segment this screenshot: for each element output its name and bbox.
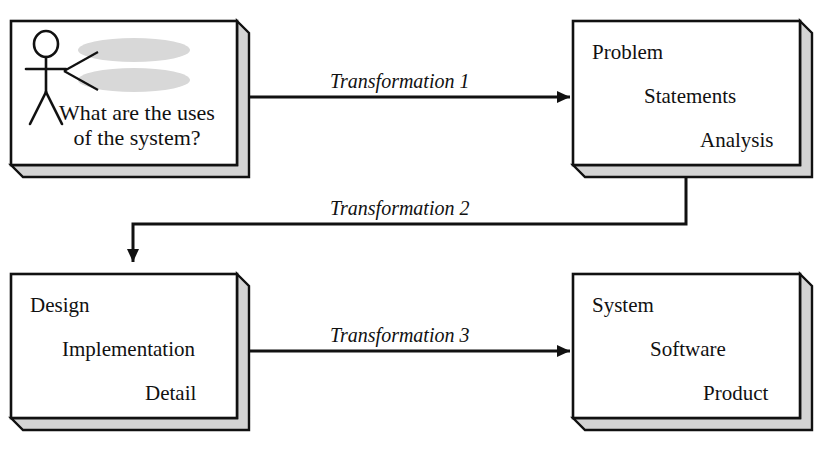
design-box-line-2: Implementation [62, 338, 195, 360]
transformation-2-label: Transformation 2 [330, 197, 469, 220]
system-box-line-1: System [592, 294, 654, 316]
design-box-line-3: Detail [145, 382, 196, 404]
use-case-question-text: What are the uses of the system? [57, 100, 217, 151]
use-case-ellipse-top [78, 38, 190, 62]
design-box-line-1: Design [30, 294, 90, 316]
diagram-canvas: What are the uses of the system? Problem… [0, 0, 826, 452]
transformation-3-label: Transformation 3 [330, 324, 469, 347]
use-case-box[interactable] [11, 21, 249, 177]
problem-box-line-2: Statements [644, 85, 736, 107]
problem-box-line-1: Problem [592, 41, 663, 63]
system-box-line-3: Product [703, 382, 768, 404]
use-case-question-line-1: What are the uses [57, 100, 217, 125]
problem-box-line-3: Analysis [700, 129, 774, 151]
transformation-1-label: Transformation 1 [330, 70, 469, 93]
system-box-line-2: Software [650, 338, 726, 360]
use-case-question-line-2: of the system? [57, 125, 217, 150]
